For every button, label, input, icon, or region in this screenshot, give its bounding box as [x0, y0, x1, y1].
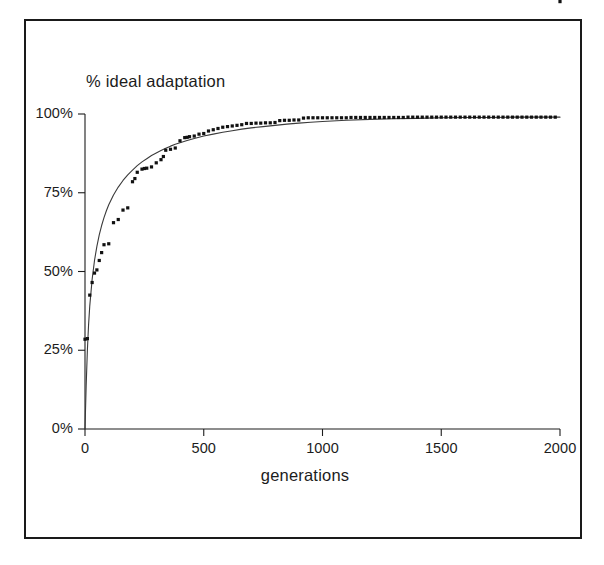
x-axis-title-text: generations [261, 466, 349, 485]
x-axis-tick-label: 2000 [520, 440, 600, 456]
x-axis-tick-label: 1000 [283, 440, 363, 456]
chart-title: % ideal adaptation [86, 72, 225, 91]
x-axis-title: generations [0, 466, 604, 485]
y-axis-tick-label: 75% [20, 184, 73, 200]
x-axis-tick-label: 500 [164, 440, 244, 456]
y-axis-tick-label: 25% [20, 341, 73, 357]
y-axis-tick-label: 50% [20, 263, 73, 279]
chart-axes [78, 114, 560, 436]
y-axis-tick-label: 0% [20, 420, 73, 436]
figure-container: % ideal adaptation 0%25%50%75%100% 05001… [0, 0, 604, 565]
x-axis-tick-label: 0 [45, 440, 125, 456]
data-point-markers [83, 0, 561, 341]
y-axis-tick-label: 100% [20, 105, 73, 121]
x-axis-tick-label: 1500 [401, 440, 481, 456]
